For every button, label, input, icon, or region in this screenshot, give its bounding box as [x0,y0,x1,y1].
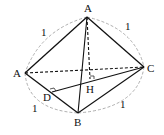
edge-atop-b [78,17,87,113]
geometry-diagram: A A C B H D 1 1 1 1 [0,0,164,135]
label-c: C [147,62,154,74]
edge-atop-aleft [25,17,87,73]
edge-length-label: 1 [125,20,131,32]
label-d: D [43,91,51,103]
label-a-left: A [13,67,21,79]
edge-length-label: 1 [32,102,38,114]
label-a-top: A [84,2,92,14]
edge-length-label: 1 [120,98,126,110]
label-b: B [74,116,81,128]
right-angle-mark-h [90,76,94,79]
edge-atop-c [87,17,144,67]
edge-length-label: 1 [41,26,47,38]
label-h: H [86,83,94,95]
